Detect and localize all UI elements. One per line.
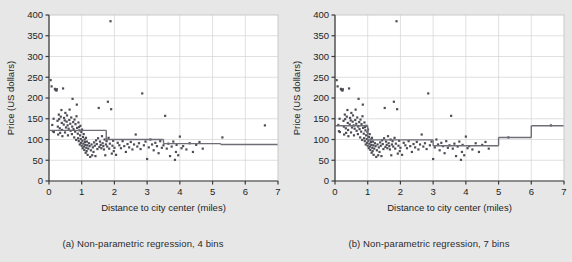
scatter-point (90, 149, 92, 151)
scatter-point (478, 151, 480, 153)
scatter-point (387, 135, 389, 137)
scatter-point (339, 131, 341, 133)
scatter-point (52, 118, 54, 120)
scatter-point (440, 142, 442, 144)
x-tick-label: 4 (463, 186, 468, 197)
scatter-point (179, 135, 181, 137)
panel-a: 05010015020025030035040001234567Distance… (0, 0, 286, 262)
scatter-point (202, 148, 204, 150)
scatter-point (363, 137, 365, 139)
scatter-point (75, 139, 77, 141)
scatter-point (452, 148, 454, 150)
scatter-point (419, 143, 421, 145)
scatter-point (192, 151, 194, 153)
y-tick-label: 200 (313, 92, 329, 103)
scatter-plot-a: 05010015020025030035040001234567Distance… (0, 0, 286, 238)
scatter-point (375, 156, 377, 158)
scatter-point (360, 123, 362, 125)
scatter-point (384, 146, 386, 148)
scatter-point (221, 136, 223, 138)
scatter-point (385, 140, 387, 142)
scatter-point (66, 114, 68, 116)
scatter-point (78, 140, 80, 142)
scatter-point (153, 149, 155, 151)
scatter-point (382, 148, 384, 150)
scatter-point (61, 122, 63, 124)
scatter-point (345, 132, 347, 134)
scatter-point (169, 155, 171, 157)
scatter-point (465, 135, 467, 137)
scatter-point (356, 116, 358, 118)
scatter-point (430, 140, 432, 142)
scatter-point (115, 154, 117, 156)
scatter-point (148, 146, 150, 148)
scatter-point (111, 145, 113, 147)
scatter-point (384, 107, 386, 109)
scatter-point (370, 141, 372, 143)
scatter-point (461, 151, 463, 153)
scatter-point (364, 129, 366, 131)
scatter-point (136, 145, 138, 147)
scatter-point (422, 145, 424, 147)
scatter-point (352, 121, 354, 123)
x-tick-label: 3 (144, 186, 149, 197)
scatter-point (388, 142, 390, 144)
scatter-point (73, 118, 75, 120)
x-tick-label: 7 (561, 186, 566, 197)
scatter-point (488, 148, 490, 150)
scatter-point (393, 101, 395, 103)
scatter-point (64, 119, 66, 121)
scatter-point (140, 148, 142, 150)
scatter-point (355, 123, 357, 125)
scatter-point (107, 137, 109, 139)
scatter-point (101, 135, 103, 137)
x-axis-title: Distance to city center (miles) (387, 202, 512, 213)
y-tick-label: 100 (27, 134, 43, 145)
scatter-point (374, 142, 376, 144)
scatter-point (416, 141, 418, 143)
scatter-point (100, 147, 102, 149)
scatter-point (92, 151, 94, 153)
scatter-point (380, 155, 382, 157)
scatter-point (396, 108, 398, 110)
scatter-point (146, 158, 148, 160)
scatter-point (88, 142, 90, 144)
figure-container: 05010015020025030035040001234567Distance… (0, 0, 572, 262)
scatter-point (347, 129, 349, 131)
scatter-point (394, 148, 396, 150)
scatter-point (131, 148, 133, 150)
scatter-point (463, 154, 465, 156)
y-axis-title: Price (US dollars) (291, 61, 302, 135)
scatter-point (382, 143, 384, 145)
scatter-point (81, 140, 83, 142)
scatter-point (104, 154, 106, 156)
scatter-point (364, 140, 366, 142)
scatter-point (426, 148, 428, 150)
scatter-point (351, 126, 353, 128)
scatter-point (350, 131, 352, 133)
scatter-point (94, 155, 96, 157)
scatter-point (406, 147, 408, 149)
y-tick-label: 400 (27, 9, 43, 20)
scatter-point (370, 144, 372, 146)
scatter-point (85, 147, 87, 149)
scatter-point (378, 151, 380, 153)
scatter-point (371, 147, 373, 149)
scatter-point (98, 107, 100, 109)
scatter-point (445, 140, 447, 142)
scatter-point (393, 137, 395, 139)
scatter-point (358, 128, 360, 130)
scatter-point (144, 140, 146, 142)
scatter-point (386, 147, 388, 149)
scatter-point (171, 145, 173, 147)
scatter-point (411, 151, 413, 153)
scatter-point (74, 123, 76, 125)
scatter-point (157, 152, 159, 154)
y-tick-label: 350 (313, 30, 329, 41)
scatter-point (91, 154, 93, 156)
scatter-point (421, 133, 423, 135)
x-tick-label: 5 (210, 186, 215, 197)
scatter-point (63, 123, 65, 125)
scatter-point (348, 87, 350, 89)
scatter-point (354, 128, 356, 130)
